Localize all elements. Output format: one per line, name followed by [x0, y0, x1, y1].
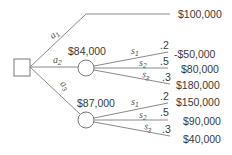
state-label-a3-s1: s1	[131, 96, 139, 108]
payoff-a3-s3: $40,000	[183, 133, 221, 145]
state-label-a2-s1: s1	[131, 45, 139, 57]
state-label-a2-s3: s3	[141, 68, 151, 81]
prob-a2-s3: .3	[162, 71, 171, 83]
decision-node-square	[14, 59, 30, 76]
prob-a3-s1: .2	[160, 90, 169, 102]
prob-a2-s2: .5	[160, 55, 169, 67]
chance-node-a3	[78, 112, 94, 128]
payoff-a2-s2: $80,000	[181, 63, 219, 75]
payoff-a2-s3: $180,000	[176, 79, 220, 91]
expected-value-a2: $84,000	[68, 45, 106, 57]
decision-tree-diagram: a1 a2 a3 $84,000 $87,000 $100,000 s1 s2 …	[0, 0, 232, 155]
expected-value-a3: $87,000	[77, 97, 115, 109]
branch-a2-s3	[94, 70, 170, 84]
branch-a1	[30, 14, 170, 67]
prob-a3-s3: .3	[162, 123, 171, 135]
state-label-a3-s2: s2	[139, 109, 147, 121]
branch-a3	[30, 67, 80, 114]
branch-a3-s3	[94, 122, 170, 136]
payoff-a2-s1: -$50,000	[174, 48, 216, 60]
prob-a3-s2: .5	[160, 106, 169, 118]
chance-node-a2	[78, 60, 94, 76]
prob-a2-s1: .2	[160, 39, 169, 51]
label-a2: a2	[53, 54, 62, 66]
payoff-a1: $100,000	[178, 8, 222, 20]
payoff-a3-s1: $150,000	[176, 96, 220, 108]
label-a3: a3	[57, 78, 72, 93]
payoff-a3-s2: $90,000	[183, 115, 221, 127]
